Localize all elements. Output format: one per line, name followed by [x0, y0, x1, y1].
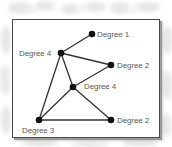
node-degree-1: [89, 31, 96, 38]
node-degree-2-bottom: [108, 117, 115, 124]
node-degree-4-top: [58, 50, 65, 57]
network-graph: [0, 0, 172, 147]
label-degree-4-center: Degree 4: [84, 82, 116, 91]
edge-b-d: [61, 53, 73, 87]
edge-b-c: [61, 53, 111, 65]
node-degree-2-right: [108, 62, 115, 69]
label-degree-1: Degree 1: [97, 30, 129, 39]
label-degree-4-top: Degree 4: [19, 49, 51, 58]
label-degree-2-right: Degree 2: [117, 61, 149, 70]
edges: [39, 34, 111, 120]
edge-a-b: [61, 34, 92, 53]
node-degree-3: [36, 117, 43, 124]
label-degree-3: Degree 3: [22, 126, 54, 135]
node-degree-4-center: [70, 84, 77, 91]
edge-d-f: [73, 87, 111, 120]
label-degree-2-bottom: Degree 2: [117, 116, 149, 125]
